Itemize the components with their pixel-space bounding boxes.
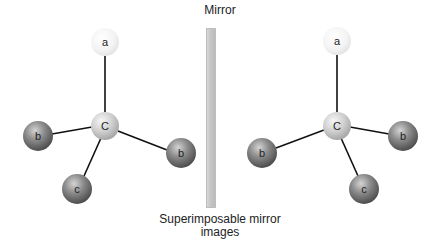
atom-label: b bbox=[400, 130, 406, 142]
atom-a: a bbox=[323, 27, 351, 55]
mirror-label: Mirror bbox=[190, 4, 250, 17]
caption-line-2: images bbox=[140, 226, 300, 239]
bond-C-b1-right bbox=[276, 130, 324, 148]
atom-central-carbon: C bbox=[91, 112, 119, 140]
figure-caption: Superimposable mirror images bbox=[140, 213, 300, 239]
left-molecule: a C b b c bbox=[23, 28, 196, 204]
atom-label: c bbox=[74, 183, 80, 195]
bond-C-b1-left bbox=[52, 127, 92, 134]
bond-C-c-left bbox=[84, 138, 101, 176]
atom-central-carbon: C bbox=[323, 112, 351, 140]
atom-label: b bbox=[259, 147, 265, 159]
atom-b: b bbox=[247, 138, 277, 168]
bond-C-b2-right bbox=[350, 127, 389, 134]
atom-c: c bbox=[62, 174, 92, 204]
atom-label: b bbox=[178, 147, 184, 159]
atom-label: b bbox=[35, 130, 41, 142]
atom-b: b bbox=[388, 121, 418, 151]
atom-label: a bbox=[102, 36, 109, 48]
atom-label: C bbox=[101, 120, 109, 132]
atom-b: b bbox=[23, 121, 53, 151]
atom-c: c bbox=[349, 174, 379, 204]
bond-C-b2-left bbox=[118, 131, 167, 150]
bond-C-c-right bbox=[341, 138, 358, 176]
diagram-stage: a C b b c a bbox=[0, 0, 441, 244]
molecule-drawing: a C b b c a bbox=[0, 0, 441, 244]
atom-label: c bbox=[361, 183, 367, 195]
atom-b: b bbox=[166, 138, 196, 168]
mirror-plane bbox=[206, 28, 216, 208]
right-molecule: a C b b c bbox=[247, 27, 418, 204]
atom-label: C bbox=[333, 120, 341, 132]
atom-label: a bbox=[334, 35, 341, 47]
atom-a: a bbox=[91, 28, 119, 56]
